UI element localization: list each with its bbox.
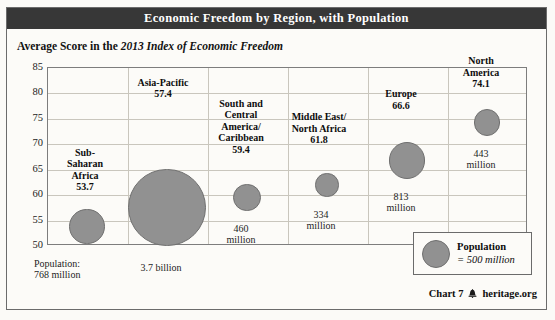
region-name-line: Sub-	[42, 147, 128, 159]
population-label: 443million	[442, 148, 520, 171]
legend-value: = 500 million	[457, 253, 529, 266]
liberty-bell-icon	[467, 288, 478, 299]
y-axis-tick-label: 70	[9, 138, 43, 148]
plot-wrapper: Sub-SaharanAfrica53.7Population:768 mill…	[47, 67, 527, 245]
population-label: Population:768 million	[34, 258, 120, 281]
region-name-line: South and	[202, 98, 280, 110]
chart-title-band: Economic Freedom by Region, with Populat…	[7, 8, 546, 29]
region-score: 66.6	[362, 100, 440, 112]
region-label: South andCentralAmerica/Caribbean59.4	[202, 98, 280, 156]
data-bubble	[128, 169, 206, 247]
population-label: 460million	[202, 223, 280, 246]
population-label-line: million	[362, 202, 440, 214]
region-label: Europe66.6	[362, 88, 440, 111]
region-score: 61.8	[276, 134, 362, 146]
region-name-line: Central	[202, 109, 280, 121]
population-label: 334million	[278, 209, 364, 232]
data-bubble	[69, 209, 104, 244]
chart-subtitle: Average Score in the 2013 Index of Econo…	[17, 40, 283, 52]
region-label: Asia-Pacific57.4	[120, 77, 206, 100]
region-score: 53.7	[42, 181, 128, 193]
region-name-line: Saharan	[42, 158, 128, 170]
y-axis-tick-label: 75	[9, 113, 43, 123]
y-axis-tick-label: 85	[9, 62, 43, 72]
subtitle-prefix: Average Score in the	[17, 40, 121, 52]
population-label-line: Population:	[34, 258, 120, 270]
region-name-line: Europe	[362, 88, 440, 100]
y-axis-tick-label: 55	[9, 215, 43, 225]
population-circle-icon	[422, 240, 450, 268]
chart-page: Economic Freedom by Region, with Populat…	[0, 0, 555, 320]
data-bubble	[474, 109, 501, 136]
population-label-line: 3.7 billion	[118, 262, 204, 274]
y-axis-tick-label: 60	[9, 189, 43, 199]
population-label: 3.7 billion	[118, 262, 204, 274]
region-name-line: Africa	[42, 170, 128, 182]
y-axis-tick-label: 50	[9, 240, 43, 250]
data-bubble	[315, 173, 338, 196]
legend: Population = 500 million	[413, 232, 532, 275]
legend-title: Population	[457, 240, 529, 253]
legend-text: Population = 500 million	[457, 240, 529, 266]
source-label: heritage.org	[482, 288, 537, 299]
region-label: Middle East/North Africa61.8	[276, 111, 362, 146]
population-label-line: million	[202, 234, 280, 246]
population-label-line: 813	[362, 191, 440, 203]
population-label-line: million	[442, 159, 520, 171]
region-name-line: Middle East/	[276, 111, 362, 123]
data-bubble	[389, 142, 425, 178]
y-axis-tick-label: 80	[9, 87, 43, 97]
chart-footer: Chart 7 heritage.org	[429, 288, 537, 299]
region-score: 57.4	[120, 88, 206, 100]
y-axis-tick-label: 65	[9, 164, 43, 174]
population-label-line: 768 million	[34, 269, 120, 281]
population-label-line: 460	[202, 223, 280, 235]
region-name-line: Asia-Pacific	[120, 77, 206, 89]
region-label: Sub-SaharanAfrica53.7	[42, 147, 128, 193]
population-label: 813million	[362, 191, 440, 214]
region-label: NorthAmerica74.1	[442, 55, 520, 90]
region-name-line: Caribbean	[202, 132, 280, 144]
population-label-line: 443	[442, 148, 520, 160]
region-score: 74.1	[442, 78, 520, 90]
page-title: Economic Freedom by Region, with Populat…	[144, 11, 409, 26]
region-name-line: North	[442, 55, 520, 67]
data-bubble	[233, 184, 260, 211]
region-name-line: America/	[202, 121, 280, 133]
region-name-line: North Africa	[276, 123, 362, 135]
region-score: 59.4	[202, 144, 280, 156]
gridline-vertical	[208, 68, 209, 245]
population-label-line: million	[278, 220, 364, 232]
chart-number: Chart 7	[429, 288, 464, 299]
subtitle-italic: 2013 Index of Economic Freedom	[121, 40, 283, 52]
population-label-line: 334	[278, 209, 364, 221]
region-name-line: America	[442, 67, 520, 79]
